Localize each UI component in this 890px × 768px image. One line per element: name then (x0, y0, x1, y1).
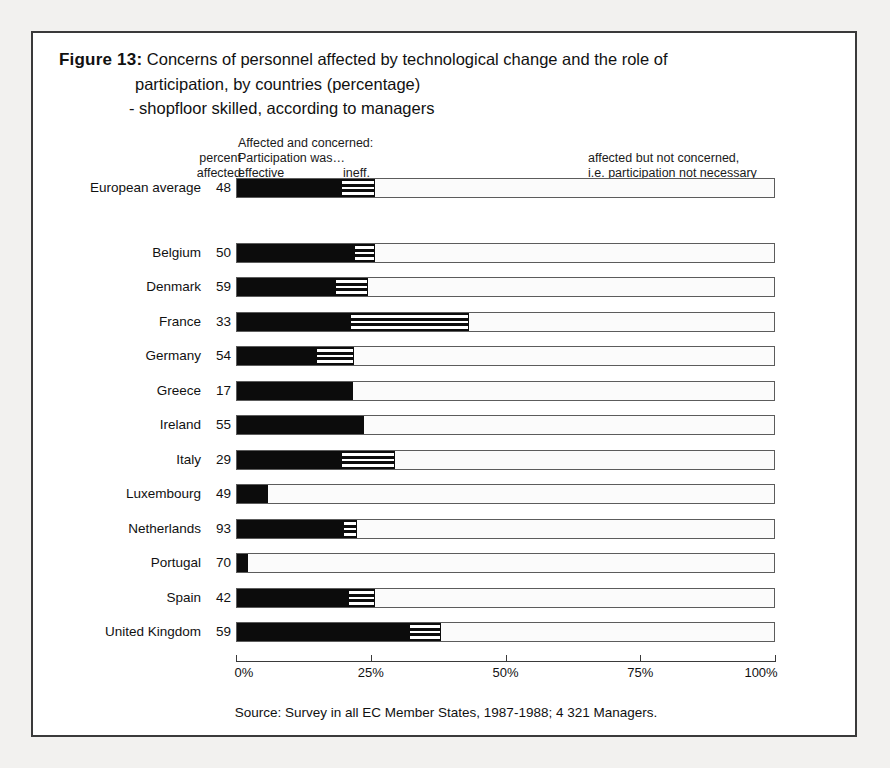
legend-participation-was: Participation was… (238, 151, 345, 166)
percent-affected-value: 55 (205, 414, 231, 436)
chart-row: Portugal70 (33, 552, 859, 574)
segment-effective (237, 520, 343, 538)
chart-row: Belgium50 (33, 242, 859, 264)
segment-effective (237, 347, 316, 365)
percent-affected-value: 93 (205, 518, 231, 540)
segment-effective (237, 416, 364, 434)
x-axis-tick (236, 655, 237, 662)
percent-affected-value: 54 (205, 345, 231, 367)
percent-affected-value: 29 (205, 449, 231, 471)
figure-page: Figure 13: Concerns of personnel affecte… (0, 0, 890, 768)
country-label: Ireland (43, 414, 201, 436)
country-label: Luxembourg (43, 483, 201, 505)
segment-effective (237, 313, 350, 331)
country-label: Portugal (43, 552, 201, 574)
percent-affected-value: 70 (205, 552, 231, 574)
country-label: European average (43, 177, 201, 199)
figure-number-label: Figure 13: (59, 50, 142, 69)
stacked-bar (236, 346, 775, 366)
segment-effective (237, 589, 348, 607)
source-note: Source: Survey in all EC Member States, … (33, 705, 859, 720)
chart-row: Denmark59 (33, 276, 859, 298)
stacked-bar (236, 243, 775, 263)
segment-ineffective (341, 451, 395, 469)
figure-frame: Figure 13: Concerns of personnel affecte… (31, 31, 857, 737)
percent-affected-value: 48 (205, 177, 231, 199)
segment-effective (237, 278, 335, 296)
stacked-bar (236, 450, 775, 470)
segment-effective (237, 244, 354, 262)
chart-row: Germany54 (33, 345, 859, 367)
x-axis-tick-label: 0% (234, 665, 253, 680)
percent-affected-value: 50 (205, 242, 231, 264)
chart-row: Luxembourg49 (33, 483, 859, 505)
percent-affected-value: 59 (205, 276, 231, 298)
stacked-bar (236, 312, 775, 332)
x-axis-tick (775, 655, 776, 662)
title-text-line-2: participation, by countries (percentage) (135, 75, 420, 93)
title-line-2: participation, by countries (percentage) (59, 72, 839, 96)
x-axis-tick (506, 655, 507, 662)
percent-affected-value: 59 (205, 621, 231, 643)
title-text-line-1: Concerns of personnel affected by techno… (147, 50, 668, 68)
chart-row: Greece17 (33, 380, 859, 402)
x-axis-tick-label: 25% (358, 665, 384, 680)
chart-row: Italy29 (33, 449, 859, 471)
chart-row: Netherlands93 (33, 518, 859, 540)
segment-effective (237, 485, 268, 503)
stacked-bar (236, 178, 775, 198)
chart-row: Ireland55 (33, 414, 859, 436)
chart-plot-area: European average48Belgium50Denmark59Fran… (33, 173, 859, 683)
x-axis-tick (371, 655, 372, 662)
legend-percent-label: percent (183, 151, 241, 166)
legend-concerned-heading: Affected and concerned: (238, 136, 373, 151)
title-text-line-3: - shopfloor skilled, according to manage… (129, 99, 434, 117)
segment-effective (237, 623, 409, 641)
stacked-bar (236, 484, 775, 504)
country-label: United Kingdom (43, 621, 201, 643)
chart-row: European average48 (33, 177, 859, 199)
segment-ineffective (341, 179, 375, 197)
x-axis-tick-label: 50% (492, 665, 518, 680)
title-line-3: - shopfloor skilled, according to manage… (59, 96, 839, 120)
country-label: Netherlands (43, 518, 201, 540)
country-label: France (43, 311, 201, 333)
country-label: Italy (43, 449, 201, 471)
segment-ineffective (343, 520, 357, 538)
percent-affected-value: 49 (205, 483, 231, 505)
segment-effective (237, 382, 353, 400)
stacked-bar (236, 588, 775, 608)
country-label: Spain (43, 587, 201, 609)
percent-affected-value: 33 (205, 311, 231, 333)
stacked-bar (236, 277, 775, 297)
stacked-bar (236, 622, 775, 642)
stacked-bar (236, 381, 775, 401)
segment-ineffective (316, 347, 354, 365)
segment-effective (237, 451, 341, 469)
country-label: Denmark (43, 276, 201, 298)
country-label: Germany (43, 345, 201, 367)
figure-title-block: Figure 13: Concerns of personnel affecte… (59, 47, 839, 120)
country-label: Belgium (43, 242, 201, 264)
title-line-1: Figure 13: Concerns of personnel affecte… (59, 47, 839, 72)
chart-row: France33 (33, 311, 859, 333)
chart-row: United Kingdom59 (33, 621, 859, 643)
segment-ineffective (354, 244, 375, 262)
segment-ineffective (409, 623, 441, 641)
segment-effective (237, 179, 341, 197)
segment-effective (237, 554, 248, 572)
stacked-bar (236, 415, 775, 435)
percent-affected-value: 42 (205, 587, 231, 609)
segment-ineffective (348, 589, 375, 607)
x-axis-tick-label: 75% (627, 665, 653, 680)
segment-ineffective (335, 278, 368, 296)
segment-ineffective (350, 313, 469, 331)
stacked-bar (236, 519, 775, 539)
x-axis-tick-label: 100% (744, 665, 777, 680)
country-label: Greece (43, 380, 201, 402)
legend-not-concerned-line-1: affected but not concerned, (588, 151, 739, 166)
chart-row: Spain42 (33, 587, 859, 609)
stacked-bar (236, 553, 775, 573)
x-axis: 0%25%50%75%100% (236, 661, 775, 695)
x-axis-tick (640, 655, 641, 662)
